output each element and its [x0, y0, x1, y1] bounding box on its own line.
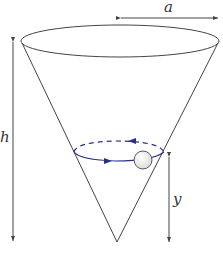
orbit-back: [74, 141, 164, 152]
radius-label: a: [164, 0, 173, 16]
orbit-arrow-front-icon: [104, 158, 112, 164]
particle-height-label: y: [173, 190, 181, 208]
cone-diagram: [0, 0, 223, 256]
height-label: h: [0, 128, 10, 146]
cone-left-side: [22, 43, 117, 242]
particle-ball: [134, 151, 152, 169]
cone-rim: [21, 25, 219, 57]
orbit-arrow-back-icon: [128, 138, 136, 144]
